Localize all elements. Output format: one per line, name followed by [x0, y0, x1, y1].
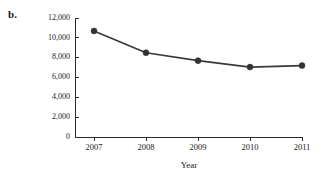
- x-tick-label: 2010: [242, 142, 259, 152]
- line-chart: 02,0004,0006,0008,00010,00012,000 200720…: [0, 0, 322, 178]
- data-point-marker: [91, 28, 97, 34]
- x-axis-title: Year: [75, 160, 303, 170]
- x-tick-label: 2009: [190, 142, 207, 152]
- y-tick-label: 0: [66, 132, 70, 141]
- y-tick-label-group: 02,0004,0006,0008,00010,00012,000: [48, 13, 70, 141]
- y-tick-label: 2,000: [52, 112, 70, 121]
- series-marker-group: [91, 28, 305, 70]
- x-tick-label: 2011: [294, 142, 311, 152]
- figure-panel-b: b. Retail Value (millions of $) 02,0004,…: [0, 0, 322, 178]
- x-tick-label: 2008: [138, 142, 155, 152]
- data-point-marker: [299, 63, 305, 69]
- x-tick-mark-group: [94, 137, 302, 141]
- y-tick-label: 12,000: [48, 13, 70, 22]
- y-tick-mark-group: [75, 18, 79, 137]
- x-tick-label-group: 20072008200920102011: [86, 142, 311, 152]
- y-tick-label: 10,000: [48, 33, 70, 42]
- y-tick-label: 4,000: [52, 92, 70, 101]
- data-point-marker: [143, 50, 149, 56]
- data-point-marker: [247, 64, 253, 70]
- y-tick-label: 8,000: [52, 52, 70, 61]
- x-tick-label: 2007: [86, 142, 103, 152]
- data-point-marker: [195, 58, 201, 64]
- y-tick-label: 6,000: [52, 72, 70, 81]
